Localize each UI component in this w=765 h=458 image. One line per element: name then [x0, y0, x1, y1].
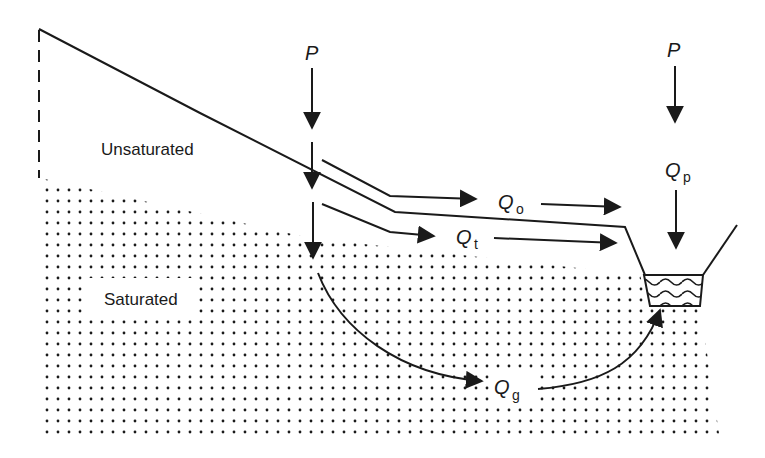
- hillslope-diagram: Unsaturated Saturated P P Q o Q t Q g Q …: [0, 0, 765, 458]
- svg-text:g: g: [512, 387, 520, 403]
- throughflow-arrow-2: [494, 238, 616, 243]
- precip-label-left: P: [305, 42, 319, 64]
- throughflow-arrow: [322, 204, 434, 236]
- svg-text:t: t: [474, 236, 478, 252]
- overland-flow-label: Q o: [498, 191, 524, 217]
- channel-right-bank: [703, 225, 737, 275]
- svg-text:p: p: [683, 169, 691, 185]
- channel-water: [644, 275, 703, 306]
- overland-flow-arrow-2: [541, 204, 620, 207]
- precip-label-right: P: [667, 39, 681, 61]
- svg-text:o: o: [516, 201, 524, 217]
- unsaturated-label: Unsaturated: [101, 140, 194, 159]
- saturated-label: Saturated: [104, 290, 178, 309]
- channel-precip-label: Q p: [665, 159, 691, 185]
- svg-text:Q: Q: [456, 226, 472, 248]
- svg-text:Q: Q: [665, 159, 681, 181]
- overland-flow-arrow: [322, 160, 476, 199]
- throughflow-label: Q t: [456, 226, 478, 252]
- svg-text:Q: Q: [498, 191, 514, 213]
- svg-text:Q: Q: [494, 376, 510, 398]
